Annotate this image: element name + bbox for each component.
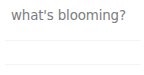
- page-title: what's blooming?: [11, 7, 126, 24]
- list-item[interactable]: [5, 41, 141, 64]
- whats-blooming-widget: what's blooming?: [0, 0, 144, 75]
- list-item[interactable]: [5, 65, 141, 75]
